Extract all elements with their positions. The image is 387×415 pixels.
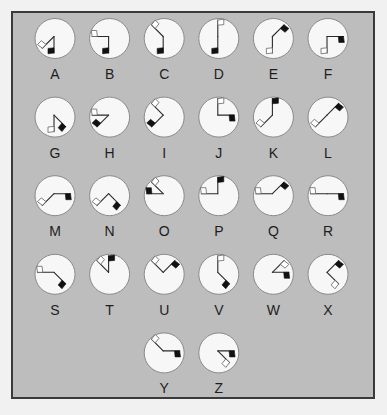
black-flag-icon bbox=[338, 194, 344, 200]
letter-label: B bbox=[105, 66, 114, 82]
semaphore-letter-e: E bbox=[253, 19, 293, 83]
semaphore-letter-v: V bbox=[199, 254, 239, 318]
white-flag-icon bbox=[218, 19, 224, 25]
signal-circle bbox=[144, 97, 184, 137]
semaphore-letter-j: J bbox=[199, 97, 239, 161]
semaphore-letter-t: T bbox=[90, 254, 130, 318]
letter-label: L bbox=[324, 145, 332, 161]
semaphore-letter-r: R bbox=[308, 176, 348, 240]
white-flag-icon bbox=[91, 31, 97, 37]
semaphore-alphabet-grid: ABCDEFGHIJKLMNOPQRSTUVWXYZ bbox=[0, 0, 387, 415]
semaphore-letter-m: M bbox=[35, 176, 75, 240]
semaphore-letter-a: A bbox=[35, 19, 75, 83]
black-flag-icon bbox=[284, 272, 290, 278]
signal-circle bbox=[35, 97, 75, 137]
letter-label: I bbox=[162, 145, 166, 161]
letter-label: R bbox=[323, 223, 333, 239]
white-flag-icon bbox=[218, 255, 224, 261]
white-flag-icon bbox=[218, 98, 224, 104]
black-flag-icon bbox=[109, 255, 115, 261]
semaphore-letter-s: S bbox=[35, 254, 75, 318]
signal-circle bbox=[144, 19, 184, 59]
black-flag-icon bbox=[338, 37, 344, 43]
letter-label: J bbox=[215, 145, 222, 161]
black-flag-icon bbox=[65, 194, 71, 200]
white-flag-icon bbox=[91, 109, 97, 115]
signal-circle bbox=[308, 254, 348, 294]
semaphore-letter-g: G bbox=[35, 97, 75, 161]
white-flag-icon bbox=[37, 266, 43, 272]
letter-label: O bbox=[159, 223, 170, 239]
signal-circle bbox=[90, 176, 130, 216]
letter-label: P bbox=[214, 223, 223, 239]
semaphore-letter-u: U bbox=[144, 254, 184, 318]
semaphore-letter-n: N bbox=[90, 176, 130, 240]
black-flag-icon bbox=[212, 48, 218, 54]
signal-circle bbox=[35, 254, 75, 294]
black-flag-icon bbox=[103, 48, 109, 54]
black-flag-icon bbox=[229, 351, 235, 357]
semaphore-letter-l: L bbox=[308, 97, 348, 161]
letter-label: C bbox=[159, 66, 169, 82]
semaphore-letter-d: D bbox=[199, 19, 239, 83]
letter-label: N bbox=[105, 223, 115, 239]
white-flag-icon bbox=[266, 48, 272, 54]
white-flag-icon bbox=[321, 48, 327, 54]
letter-label: W bbox=[267, 302, 281, 318]
semaphore-letter-c: C bbox=[144, 19, 184, 83]
signal-circle bbox=[90, 19, 130, 59]
letter-label: A bbox=[50, 66, 60, 82]
letter-label: G bbox=[50, 145, 61, 161]
black-flag-icon bbox=[218, 176, 224, 182]
letter-label: K bbox=[269, 145, 279, 161]
semaphore-letter-q: Q bbox=[253, 176, 293, 240]
semaphore-letter-x: X bbox=[308, 254, 348, 318]
letter-label: Q bbox=[268, 223, 279, 239]
signal-circle bbox=[90, 97, 130, 137]
letter-label: X bbox=[323, 302, 333, 318]
black-flag-icon bbox=[48, 48, 54, 54]
signal-circle bbox=[144, 254, 184, 294]
letter-label: S bbox=[50, 302, 59, 318]
letter-label: V bbox=[214, 302, 224, 318]
signal-circle bbox=[253, 176, 293, 216]
semaphore-letter-k: K bbox=[253, 97, 293, 161]
signal-circle bbox=[253, 19, 293, 59]
white-flag-icon bbox=[310, 188, 316, 194]
semaphore-letter-o: O bbox=[144, 176, 184, 240]
letter-label: E bbox=[269, 66, 278, 82]
letter-label: F bbox=[324, 66, 333, 82]
white-flag-icon bbox=[48, 126, 54, 132]
semaphore-letter-y: Y bbox=[144, 333, 184, 397]
black-flag-icon bbox=[229, 115, 235, 121]
letter-label: D bbox=[214, 66, 224, 82]
semaphore-letter-b: B bbox=[90, 19, 130, 83]
letter-label: Y bbox=[160, 380, 170, 396]
signal-circle bbox=[35, 19, 75, 59]
letter-label: H bbox=[105, 145, 115, 161]
black-flag-icon bbox=[146, 188, 152, 194]
letter-label: Z bbox=[215, 380, 224, 396]
semaphore-letter-w: W bbox=[253, 254, 293, 318]
semaphore-letter-z: Z bbox=[199, 333, 239, 397]
white-flag-icon bbox=[201, 188, 207, 194]
signal-circle bbox=[308, 97, 348, 137]
black-flag-icon bbox=[157, 48, 163, 54]
letter-label: T bbox=[105, 302, 114, 318]
letter-label: M bbox=[49, 223, 61, 239]
semaphore-letter-i: I bbox=[144, 97, 184, 161]
semaphore-letter-f: F bbox=[308, 19, 348, 83]
black-flag-icon bbox=[272, 98, 278, 104]
white-flag-icon bbox=[255, 188, 261, 194]
semaphore-letter-p: P bbox=[199, 176, 239, 240]
semaphore-letter-h: H bbox=[90, 97, 130, 161]
letter-label: U bbox=[159, 302, 169, 318]
signal-circle bbox=[144, 176, 184, 216]
black-flag-icon bbox=[175, 351, 181, 357]
